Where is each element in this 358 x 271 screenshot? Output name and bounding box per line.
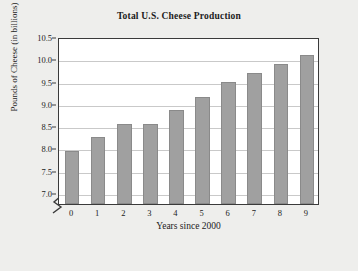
- y-tick-mark: [52, 193, 56, 194]
- y-tick-mark: [52, 171, 56, 172]
- bar: [169, 110, 184, 204]
- bar: [65, 151, 80, 204]
- x-tick-label: 2: [121, 208, 125, 218]
- bar: [195, 97, 210, 204]
- y-tick-label: 10.5: [37, 33, 52, 43]
- y-tick-label: 8.5: [41, 122, 52, 132]
- y-tick-mark: [52, 82, 56, 83]
- x-tick-label: 5: [199, 208, 203, 218]
- chart-title: Total U.S. Cheese Production: [0, 11, 358, 21]
- x-axis-title: Years since 2000: [58, 221, 319, 231]
- x-tick-label: 6: [226, 208, 230, 218]
- bar: [221, 82, 236, 204]
- bar: [300, 55, 315, 204]
- y-tick-label: 10.0: [37, 55, 52, 65]
- y-tick-mark: [52, 104, 56, 105]
- x-tick-label: 1: [95, 208, 99, 218]
- x-tick-label: 9: [304, 208, 308, 218]
- y-tick-label: 9.5: [41, 78, 52, 88]
- x-tick-label: 8: [278, 208, 282, 218]
- bar: [143, 124, 158, 204]
- x-tick-label: 0: [69, 208, 73, 218]
- y-tick-mark: [52, 38, 56, 39]
- y-tick-label: 8.0: [41, 144, 52, 154]
- x-tick-label: 7: [252, 208, 256, 218]
- y-tick-mark: [52, 149, 56, 150]
- bars-layer: [59, 39, 318, 204]
- y-tick-mark: [52, 60, 56, 61]
- bar: [247, 73, 262, 204]
- bar: [117, 124, 132, 204]
- x-axis-ticks: 0123456789: [58, 205, 319, 221]
- bar: [91, 137, 106, 204]
- y-tick-label: 7.5: [41, 167, 52, 177]
- bar: [274, 64, 289, 204]
- y-tick-mark: [52, 127, 56, 128]
- y-axis-ticks: 7.07.58.08.59.09.510.010.5: [0, 38, 56, 205]
- chart-figure: Total U.S. Cheese Production Pounds of C…: [0, 0, 358, 271]
- x-tick-label: 4: [173, 208, 177, 218]
- x-tick-label: 3: [147, 208, 151, 218]
- plot-area: [58, 38, 319, 205]
- y-tick-label: 9.0: [41, 100, 52, 110]
